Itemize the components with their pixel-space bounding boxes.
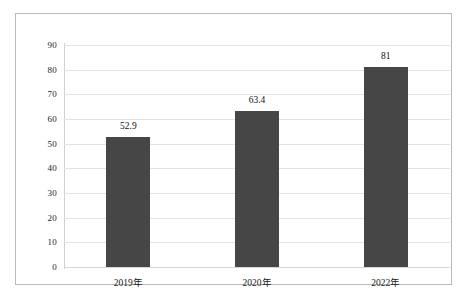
bar-value-label-2020年: 63.4 <box>217 96 297 106</box>
y-tick-label-60: 60 <box>16 115 57 124</box>
plot-area <box>64 45 450 267</box>
y-tick-label-50: 50 <box>16 139 57 148</box>
x-tick-label-2020年: 2020年 <box>207 279 307 289</box>
y-tick-label-70: 70 <box>16 90 57 99</box>
bar-2020年 <box>235 111 279 267</box>
y-tick-label-40: 40 <box>16 164 57 173</box>
y-tick-label-0: 0 <box>16 263 57 272</box>
bar-value-label-2022年: 81 <box>346 52 426 62</box>
bar-value-label-2019年: 52.9 <box>88 122 168 132</box>
gridline-90 <box>64 45 450 46</box>
bar-2019年 <box>106 137 150 267</box>
y-tick-label-20: 20 <box>16 213 57 222</box>
gridline-0 <box>64 267 450 268</box>
bar-2022年 <box>364 67 408 267</box>
y-tick-label-10: 10 <box>16 238 57 247</box>
y-tick-label-30: 30 <box>16 189 57 198</box>
x-tick-label-2019年: 2019年 <box>78 279 178 289</box>
y-tick-label-80: 80 <box>16 65 57 74</box>
chart-frame: 0102030405060708090 52.963.481 2019年2020… <box>15 13 452 285</box>
x-tick-label-2022年: 2022年 <box>336 279 436 289</box>
y-tick-label-90: 90 <box>16 41 57 50</box>
bar-chart-figure: 0102030405060708090 52.963.481 2019年2020… <box>0 0 465 296</box>
